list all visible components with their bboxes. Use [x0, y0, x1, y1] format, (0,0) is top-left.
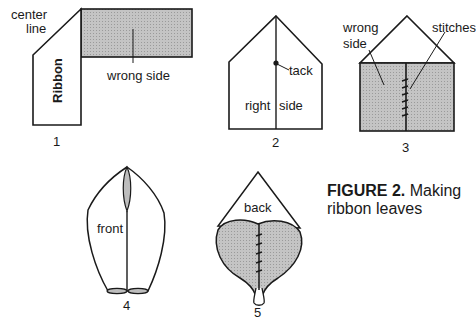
- back-label: back: [244, 200, 272, 215]
- step-number-1: 1: [53, 134, 60, 149]
- step-number-4: 4: [123, 298, 130, 313]
- step-3: wrong side stitches 3: [342, 16, 476, 155]
- tack-label: tack: [289, 63, 313, 78]
- right-label: right: [245, 98, 271, 113]
- step-1: center line wrong side Ribbon 1: [11, 7, 192, 149]
- step-number-5: 5: [254, 305, 261, 319]
- step-5: back 5: [216, 172, 301, 319]
- ribbon-wrong-side-shaded: [81, 9, 192, 57]
- step-4: front 4: [87, 167, 165, 313]
- side-label: side: [343, 36, 367, 51]
- side-label: side: [279, 98, 303, 113]
- center-line-label-1: center: [11, 7, 48, 22]
- wrong-side-shaded-panel: [360, 63, 454, 131]
- ribbon-label: Ribbon: [50, 58, 65, 103]
- step-number-2: 2: [272, 135, 279, 150]
- figure-number: FIGURE 2.: [327, 182, 405, 199]
- bottom-fold-left: [107, 288, 127, 293]
- ribbon-leaves-diagram: center line wrong side Ribbon 1 tack rig…: [0, 0, 476, 319]
- wrong-label: wrong: [342, 20, 378, 35]
- bottom-fold-right: [128, 288, 148, 293]
- figure-caption: FIGURE 2. Making ribbon leaves: [327, 182, 476, 218]
- front-label: front: [97, 221, 123, 236]
- top-fold-shaded: [123, 167, 131, 211]
- step-2: tack right side 2: [229, 16, 322, 150]
- center-line-label-2: line: [26, 21, 46, 36]
- leaf-stem: [254, 288, 265, 305]
- wrong-side-label: wrong side: [106, 68, 170, 83]
- stitches-label: stitches: [432, 20, 476, 35]
- step-number-3: 3: [402, 140, 409, 155]
